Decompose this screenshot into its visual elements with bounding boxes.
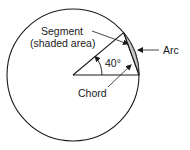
segment-label-line2: (shaded area) <box>30 37 95 49</box>
segment-label-line1: Segment <box>41 25 83 37</box>
chord-line <box>124 33 139 75</box>
chord-label: Chord <box>78 87 107 99</box>
arc-label: Arc <box>163 44 179 56</box>
angle-label: 40° <box>105 57 121 69</box>
circle-segment-diagram: Segment (shaded area) 40° Arc Chord <box>0 0 190 150</box>
angle-arc <box>95 56 102 75</box>
